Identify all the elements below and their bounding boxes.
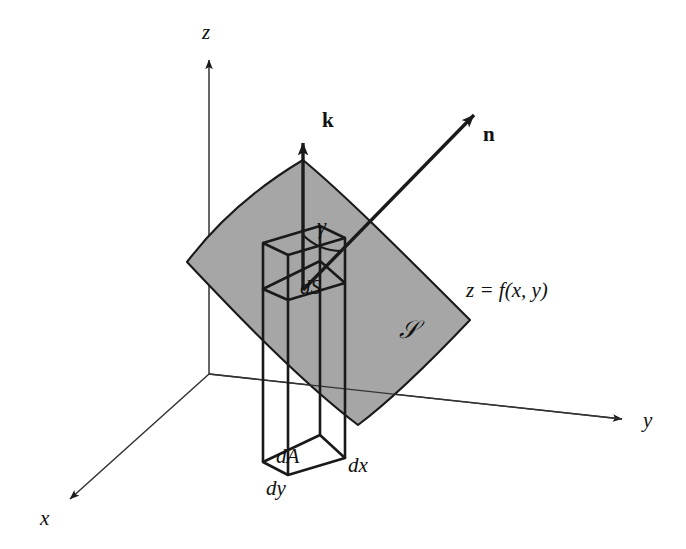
diagram-canvas — [0, 0, 686, 549]
surface-patch-label: 𝒮 — [399, 317, 418, 342]
n-vector-label: n — [483, 124, 495, 145]
x-axis — [70, 374, 209, 499]
x-axis-label: x — [40, 508, 49, 529]
surface-fill — [187, 160, 470, 425]
surface-integral-diagram: z y x k n γ dS 𝒮 z = f(x, y) dA dx dy — [0, 0, 686, 549]
y-axis-label: y — [643, 410, 652, 431]
k-vector-label: k — [322, 110, 334, 131]
dx-label: dx — [348, 455, 368, 476]
plane-guides — [209, 374, 622, 419]
gamma-angle-label: γ — [317, 215, 326, 238]
dA-label: dA — [276, 446, 299, 467]
z-axis-label: z — [202, 22, 210, 43]
surface-patch — [187, 160, 470, 425]
surface-equation-label: z = f(x, y) — [466, 280, 548, 301]
plane-guide-line — [209, 374, 622, 419]
dS-label: dS — [300, 277, 321, 298]
dy-label: dy — [266, 478, 286, 499]
